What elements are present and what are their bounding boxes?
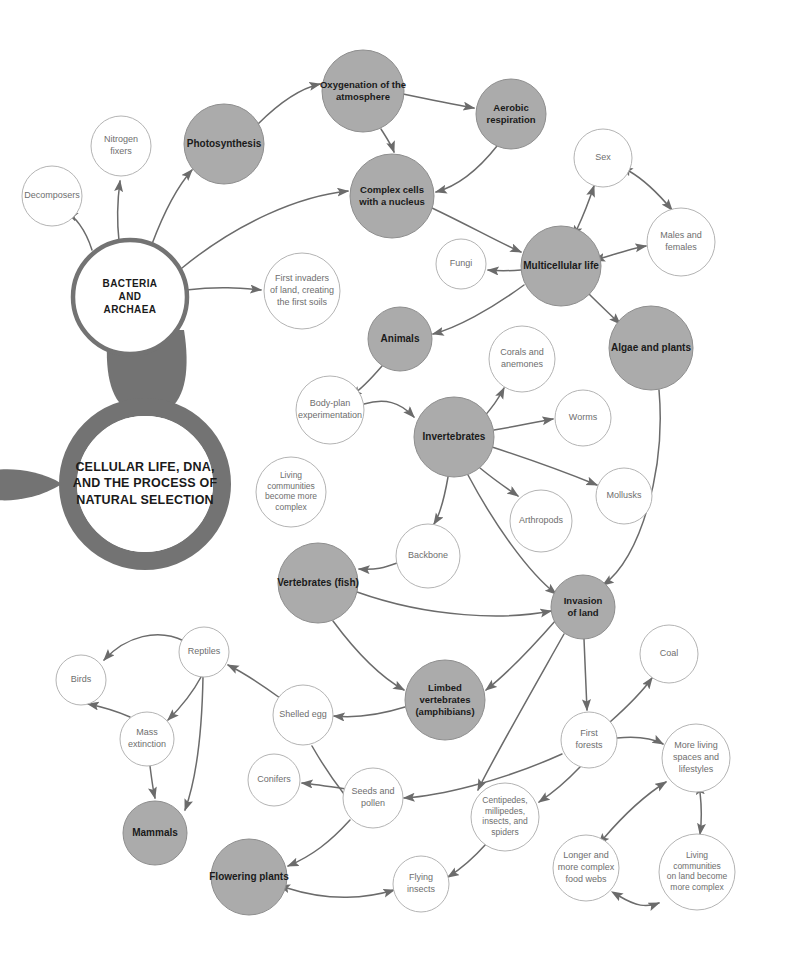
node-mammals[interactable]: Mammals — [123, 801, 187, 865]
node-label-mollusks: Mollusks — [606, 490, 642, 500]
edge-first-forests-to-coal — [610, 678, 652, 722]
edge-shelled-egg-to-reptiles — [228, 665, 280, 698]
node-invasion-of-land[interactable]: Invasionof land — [551, 575, 615, 639]
node-label-longer-food-webs: Longer andmore complexfood webs — [558, 851, 615, 884]
node-longer-food-webs[interactable]: Longer andmore complexfood webs — [553, 835, 619, 901]
edge-invasion-of-land-to-limbed-vert — [486, 620, 556, 690]
edge-invertebrates-to-mollusks — [492, 447, 597, 485]
node-label-animals: Animals — [381, 333, 420, 344]
node-label-conifers: Conifers — [257, 774, 291, 784]
node-label-arthropods: Arthropods — [519, 515, 564, 525]
node-mass-extinction[interactable]: Massextinction — [120, 712, 174, 766]
edge-aerobic-to-complex-cells — [436, 146, 497, 192]
node-nitrogen-fixers[interactable]: Nitrogenfixers — [91, 116, 151, 176]
edge-vertebrates-fish-to-limbed-vert — [333, 621, 404, 690]
node-label-decomposers: Decomposers — [24, 190, 80, 200]
node-label-worms: Worms — [569, 412, 598, 422]
edge-invertebrates-to-backbone — [434, 477, 448, 524]
node-complex-cells[interactable]: Complex cellswith a nucleus — [350, 154, 434, 238]
node-arthropods[interactable]: Arthropods — [510, 490, 572, 552]
node-oxygenation[interactable]: Oxygenation of theatmosphere — [320, 50, 406, 132]
node-label-first-invaders: First invadersof land, creatingthe first… — [270, 274, 334, 307]
edge-invertebrates-to-worms — [494, 419, 553, 430]
node-label-more-living-spaces: More livingspaces andlifestyles — [673, 741, 719, 774]
node-first-forests[interactable]: Firstforests — [561, 712, 617, 768]
node-living-complex[interactable]: Livingcommunitiesbecome morecomplex — [256, 457, 326, 527]
node-flowering-plants[interactable]: Flowering plants — [209, 839, 289, 915]
node-label-males-females: Males andfemales — [660, 231, 702, 253]
edge-bacteria-archaea-to-first-invaders — [186, 288, 261, 290]
node-label-complex-cells: Complex cellswith a nucleus — [358, 183, 424, 206]
node-coal[interactable]: Coal — [640, 625, 698, 683]
node-corals-anemones[interactable]: Corals andanemones — [489, 326, 555, 392]
edge-limbed-vert-to-shelled-egg — [334, 707, 405, 717]
node-body-plan[interactable]: Body-planexperimentation — [296, 376, 364, 444]
node-mollusks[interactable]: Mollusks — [596, 468, 652, 524]
node-conifers[interactable]: Conifers — [248, 754, 300, 806]
node-living-on-land[interactable]: Livingcommunitieson land becomemore comp… — [659, 834, 735, 910]
node-label-flying-insects: Flyinginsects — [407, 873, 436, 895]
node-vertebrates-fish[interactable]: Vertebrates (fish) — [277, 543, 359, 623]
node-label-mammals: Mammals — [132, 827, 178, 838]
edge-longer-food-webs-to-living-on-land — [619, 896, 659, 906]
node-birds[interactable]: Birds — [56, 655, 106, 705]
node-label-corals-anemones: Corals andanemones — [500, 348, 544, 370]
edge-seeds-pollen-to-flowering-plants — [288, 820, 350, 866]
edge-longer-food-webs-to-more-living-spaces — [604, 782, 666, 838]
node-males-females[interactable]: Males andfemales — [647, 208, 715, 276]
node-more-living-spaces[interactable]: More livingspaces andlifestyles — [662, 724, 730, 792]
node-centipedes[interactable]: Centipedes,millipedes,insects, andspider… — [471, 783, 539, 851]
node-fungi[interactable]: Fungi — [436, 239, 486, 289]
diagram-title-group: CELLULAR LIFE, DNA,AND THE PROCESS OFNAT… — [73, 460, 218, 507]
node-multicellular[interactable]: Multicellular life — [521, 226, 601, 306]
node-label-aerobic: Aerobicrespiration — [486, 101, 535, 124]
node-label-coal: Coal — [660, 648, 679, 658]
edge-photosynthesis-to-oxygenation — [258, 84, 320, 124]
node-label-backbone: Backbone — [408, 550, 448, 560]
edge-invasion-of-land-to-first-forests — [584, 639, 587, 710]
edge-bacteria-archaea-to-nitrogen-fixers — [117, 181, 120, 241]
edge-oxygenation-to-aerobic — [403, 94, 474, 108]
node-photosynthesis[interactable]: Photosynthesis — [184, 104, 264, 184]
node-algae-plants[interactable]: Algae and plants — [609, 306, 693, 390]
node-aerobic[interactable]: Aerobicrespiration — [476, 79, 546, 149]
node-sex[interactable]: Sex — [574, 129, 632, 187]
node-label-birds: Birds — [71, 674, 92, 684]
edge-first-forests-to-centipedes — [539, 767, 580, 802]
node-label-multicellular: Multicellular life — [523, 260, 599, 271]
node-label-reptiles: Reptiles — [188, 646, 221, 656]
edge-multicellular-to-animals — [433, 285, 524, 334]
diagram-canvas: DecomposersNitrogenfixersPhotosynthesisO… — [0, 0, 786, 969]
edge-centipedes-to-flying-insects — [448, 844, 486, 877]
node-shelled-egg[interactable]: Shelled egg — [273, 685, 333, 745]
node-worms[interactable]: Worms — [555, 390, 611, 446]
node-animals[interactable]: Animals — [368, 307, 432, 371]
node-flying-insects[interactable]: Flyinginsects — [393, 856, 449, 912]
node-backbone[interactable]: Backbone — [396, 524, 460, 588]
node-first-invaders[interactable]: First invadersof land, creatingthe first… — [264, 253, 340, 329]
edge-bacteria-archaea-to-photosynthesis — [152, 170, 192, 244]
page-title: CELLULAR LIFE, DNA,AND THE PROCESS OFNAT… — [73, 460, 218, 507]
edge-multicellular-to-males-females — [602, 246, 646, 258]
node-invertebrates[interactable]: Invertebrates — [414, 397, 494, 477]
edge-body-plan-to-invertebrates — [364, 401, 414, 417]
node-label-flowering-plants: Flowering plants — [209, 871, 289, 882]
magnifier-handle — [0, 469, 62, 500]
node-label-sex: Sex — [595, 152, 611, 162]
edge-reptiles-to-birds — [104, 635, 184, 660]
edge-multicellular-to-algae-plants — [589, 294, 620, 324]
node-label-vertebrates-fish: Vertebrates (fish) — [277, 577, 359, 588]
node-bacteria-archaea[interactable]: BACTERIAANDARCHAEA — [73, 240, 187, 354]
node-decomposers[interactable]: Decomposers — [22, 166, 82, 226]
node-label-invertebrates: Invertebrates — [423, 431, 486, 442]
node-reptiles[interactable]: Reptiles — [179, 627, 229, 677]
node-seeds-pollen[interactable]: Seeds andpollen — [343, 768, 403, 828]
magnifier-graphic — [0, 330, 222, 561]
edge-flowering-plants-to-flying-insects — [287, 888, 394, 897]
edge-vertebrates-fish-to-invasion-of-land — [357, 592, 551, 616]
edge-more-living-spaces-to-living-on-land — [700, 792, 702, 834]
node-limbed-vert[interactable]: Limbedvertebrates(amphibians) — [405, 660, 485, 740]
edge-backbone-to-vertebrates-fish — [359, 563, 397, 569]
concept-map-diagram: DecomposersNitrogenfixersPhotosynthesisO… — [0, 0, 786, 969]
node-label-shelled-egg: Shelled egg — [279, 709, 327, 719]
